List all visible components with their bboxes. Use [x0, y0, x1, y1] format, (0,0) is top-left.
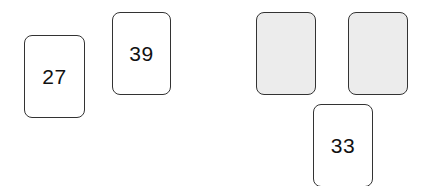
card-value: 33 — [331, 134, 355, 158]
card-face-up[interactable]: 39 — [112, 12, 171, 95]
card-value: 27 — [42, 65, 66, 89]
card-face-up[interactable]: 33 — [313, 104, 373, 186]
card-face-down[interactable] — [256, 12, 316, 95]
card-face-up[interactable]: 27 — [24, 35, 85, 118]
card-face-down[interactable] — [348, 12, 408, 95]
card-value: 39 — [129, 42, 153, 66]
